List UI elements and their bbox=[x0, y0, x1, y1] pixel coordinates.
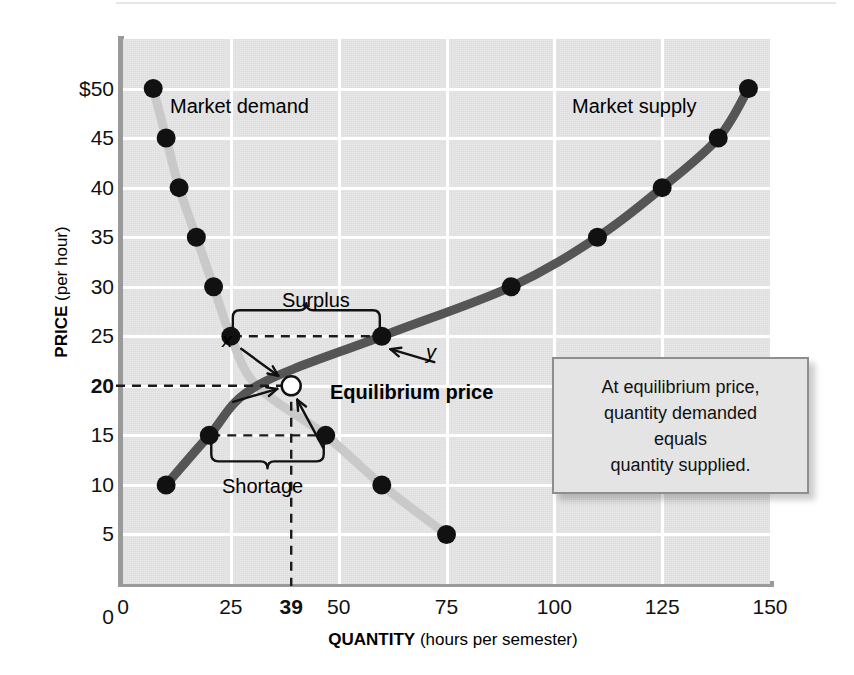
data-point-marker bbox=[739, 79, 758, 98]
data-point-marker bbox=[372, 475, 391, 494]
data-point-marker bbox=[157, 129, 176, 148]
equilibrium-price-label: Equilibrium price bbox=[330, 382, 493, 402]
data-point-marker bbox=[502, 277, 521, 296]
surplus-label: Surplus bbox=[282, 290, 350, 310]
callout-line-4: quantity supplied. bbox=[610, 455, 750, 475]
curve-demand bbox=[153, 89, 446, 535]
data-point-marker bbox=[204, 277, 223, 296]
data-point-marker bbox=[437, 525, 456, 544]
arrow-to-equilibrium-lower-head-b bbox=[266, 387, 277, 388]
data-point-marker bbox=[170, 178, 189, 197]
arrow-to-equilibrium-below-head-b bbox=[297, 400, 298, 411]
data-point-marker bbox=[200, 426, 219, 445]
callout-line-3: equals bbox=[654, 429, 707, 449]
data-point-marker bbox=[187, 228, 206, 247]
point-y-label: y bbox=[426, 342, 436, 362]
callout-line-2: quantity demanded bbox=[604, 403, 757, 423]
shortage-brace bbox=[211, 443, 323, 468]
data-point-marker bbox=[372, 327, 391, 346]
data-point-marker bbox=[588, 228, 607, 247]
shortage-label: Shortage bbox=[222, 476, 303, 496]
arrow-to-equilibrium-below bbox=[297, 400, 323, 448]
equilibrium-marker bbox=[282, 376, 301, 395]
callout-box: At equilibrium price, quantity demanded … bbox=[552, 357, 809, 494]
callout-line-1: At equilibrium price, bbox=[601, 377, 759, 397]
series-label-supply: Market supply bbox=[572, 96, 697, 116]
data-point-marker bbox=[653, 178, 672, 197]
supply-demand-figure: $50454035302520151050 025395075100125150… bbox=[0, 0, 854, 675]
arrow-to-point-y-head-a bbox=[390, 348, 401, 349]
series-label-demand: Market demand bbox=[170, 96, 309, 116]
callout-text: At equilibrium price, quantity demanded … bbox=[601, 374, 759, 478]
point-x-label: x bbox=[222, 330, 232, 350]
data-point-marker bbox=[709, 129, 728, 148]
data-point-marker bbox=[157, 475, 176, 494]
curve-layer bbox=[0, 0, 854, 675]
data-point-marker bbox=[144, 79, 163, 98]
